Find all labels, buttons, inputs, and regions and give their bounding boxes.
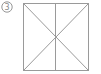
square-diagram [0,0,101,74]
